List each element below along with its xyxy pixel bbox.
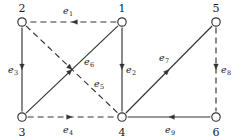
node-layer [18, 18, 220, 121]
edge-label-base-e6: e [84, 56, 90, 67]
edge-label-subscript-e9: 9 [171, 129, 175, 137]
node-5[interactable] [212, 18, 220, 26]
node-label-3: 3 [19, 127, 26, 138]
edge-label-base-e5: e [94, 78, 100, 89]
node-4[interactable] [118, 113, 126, 121]
arrowhead-e3 [20, 64, 25, 69]
edge-label-subscript-e3: 3 [14, 69, 18, 77]
arrowhead-layer [20, 20, 219, 120]
edge-label-e5: e5 [94, 79, 104, 89]
node-label-1: 1 [119, 3, 126, 14]
node-1[interactable] [118, 18, 126, 26]
arrowhead-e8 [214, 64, 219, 69]
edge-label-base-e3: e [8, 64, 14, 75]
node-2[interactable] [18, 18, 26, 26]
edge-label-e9: e9 [165, 125, 175, 135]
edge-label-subscript-e8: 8 [227, 69, 231, 77]
arrowhead-e9 [169, 115, 174, 120]
node-label-5: 5 [213, 3, 220, 14]
edge-label-subscript-e5: 5 [100, 83, 104, 91]
edge-label-subscript-e1: 1 [69, 10, 73, 18]
edge-label-e1: e1 [63, 6, 73, 16]
arrowhead-e1 [72, 20, 77, 25]
edge-label-base-e1: e [63, 5, 69, 16]
node-label-4: 4 [119, 127, 126, 138]
edge-label-subscript-e6: 6 [90, 61, 94, 69]
graph-figure: 123456e1e2e3e4e5e6e7e8e9 [0, 0, 242, 140]
node-label-6: 6 [213, 127, 220, 138]
edge-label-base-e9: e [165, 124, 171, 135]
edge-label-base-e8: e [221, 64, 227, 75]
arrowhead-e5 [67, 64, 72, 69]
edge-layer [22, 22, 216, 117]
edge-label-base-e4: e [63, 124, 69, 135]
edge-label-base-e7: e [159, 52, 165, 63]
node-label-2: 2 [19, 3, 26, 14]
edge-label-base-e2: e [126, 64, 132, 75]
arrowhead-e4 [67, 115, 72, 120]
edge-label-e8: e8 [221, 65, 231, 75]
edge-label-e3: e3 [8, 65, 18, 75]
edge-label-e4: e4 [63, 125, 73, 135]
node-6[interactable] [212, 113, 220, 121]
edge-label-subscript-e2: 2 [132, 69, 136, 77]
edge-label-e7: e7 [159, 53, 169, 63]
graph-canvas [0, 0, 242, 140]
arrowhead-e2 [120, 64, 125, 69]
edge-label-subscript-e4: 4 [69, 129, 73, 137]
edge-label-subscript-e7: 7 [165, 57, 169, 65]
edge-label-e6: e6 [84, 57, 94, 67]
node-3[interactable] [18, 113, 26, 121]
edge-label-e2: e2 [126, 65, 136, 75]
